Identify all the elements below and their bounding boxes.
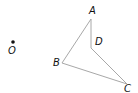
point-O-dot xyxy=(11,40,15,44)
label-A: A xyxy=(88,5,96,16)
label-D: D xyxy=(95,36,103,47)
label-B: B xyxy=(53,57,60,68)
geometry-diagram: O A D B C xyxy=(0,0,138,93)
label-O: O xyxy=(8,45,16,56)
quadrilateral-ADCB xyxy=(62,19,127,84)
label-C: C xyxy=(124,83,131,93)
